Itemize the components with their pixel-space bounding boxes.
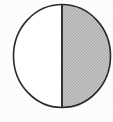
- half-shaded-circle-figure: [12, 3, 112, 109]
- right-half-region: [62, 3, 112, 109]
- figure-canvas: [0, 0, 113, 122]
- left-half-region: [12, 3, 62, 109]
